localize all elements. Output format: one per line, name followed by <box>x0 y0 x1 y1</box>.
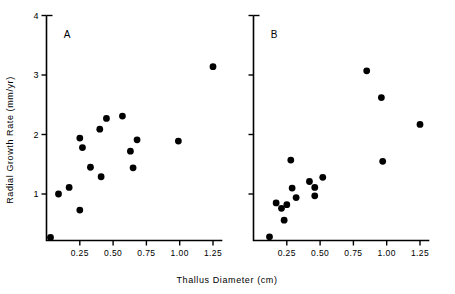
panel-B-datapoint-4 <box>283 201 290 208</box>
panel-A-xticklabel-0.5: 0.50 <box>104 248 122 258</box>
panel-B-datapoint-10 <box>311 192 318 199</box>
panel-A-datapoint-2 <box>66 184 73 191</box>
panel-B-xticklabel-1.25: 1.25 <box>411 248 429 258</box>
panel-B-datapoint-12 <box>363 67 370 74</box>
panel-A-xticklabel-1.25: 1.25 <box>204 248 222 258</box>
panel-A-yticklabel-4: 4 <box>33 11 38 21</box>
panel-B-datapoint-8 <box>306 178 313 185</box>
panel-B-datapoint-9 <box>311 184 318 191</box>
panel-A-datapoint-7 <box>96 126 103 133</box>
panel-A-yticklabel-3: 3 <box>33 70 38 80</box>
panel-B-xticklabel-1: 1.00 <box>378 248 396 258</box>
panel-A-datapoint-5 <box>79 144 86 151</box>
panel-B-datapoint-3 <box>281 217 288 224</box>
panel-A-xticklabel-1: 1.00 <box>171 248 189 258</box>
panel-A-letter: A <box>64 29 71 40</box>
panel-B-datapoint-7 <box>293 194 300 201</box>
panel-B-datapoint-1 <box>273 200 280 207</box>
panel-A-xticklabel-0.75: 0.75 <box>137 248 155 258</box>
panel-A-datapoint-13 <box>134 136 141 143</box>
panel-A-datapoint-9 <box>103 115 110 122</box>
panel-A-datapoint-10 <box>119 113 126 120</box>
panel-A-axes <box>47 16 223 241</box>
panel-B-xticklabel-0.5: 0.50 <box>311 248 329 258</box>
panel-B-xticklabel-0.25: 0.25 <box>278 248 296 258</box>
panel-A-datapoint-3 <box>76 207 83 214</box>
panel-A-datapoint-11 <box>127 148 134 155</box>
panel-B-xticklabel-0.75: 0.75 <box>344 248 362 258</box>
panel-A-datapoint-14 <box>175 138 182 145</box>
panel-A-datapoint-1 <box>55 191 62 198</box>
panel-B-datapoint-6 <box>289 185 296 192</box>
panel-A-datapoint-8 <box>98 173 105 180</box>
figure-canvas: 12340.250.500.751.001.25A0.250.500.751.0… <box>0 0 455 294</box>
panel-A-yticklabel-1: 1 <box>33 189 38 199</box>
panel-A-datapoint-12 <box>130 164 137 171</box>
panel-B-datapoint-15 <box>417 121 424 128</box>
panel-B-letter: B <box>271 29 278 40</box>
figure-scatter-panels: 12340.250.500.751.001.25A0.250.500.751.0… <box>0 0 455 294</box>
panel-B-datapoint-14 <box>379 158 386 165</box>
panel-B-datapoint-13 <box>378 94 385 101</box>
panel-A-datapoint-4 <box>76 135 83 142</box>
x-axis-title: Thallus Diameter (cm) <box>176 275 277 285</box>
panel-A-yticklabel-2: 2 <box>33 130 38 140</box>
panel-B-datapoint-5 <box>287 157 294 164</box>
y-axis-title: Radial Growth Rate (mm/yr) <box>5 76 15 204</box>
panel-B-datapoint-11 <box>319 174 326 181</box>
panel-B-datapoint-0 <box>266 233 273 240</box>
panel-A-datapoint-0 <box>47 234 54 241</box>
panel-A: 12340.250.500.751.001.25A <box>33 11 222 258</box>
panel-A-datapoint-6 <box>87 164 94 171</box>
panel-B: 0.250.500.751.001.25B <box>249 16 430 258</box>
panel-A-datapoint-15 <box>210 63 217 70</box>
panel-A-xticklabel-0.25: 0.25 <box>71 248 89 258</box>
